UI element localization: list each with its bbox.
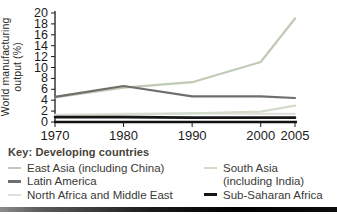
page-divider-bar: [0, 207, 337, 212]
x-tick-label: 1970: [41, 128, 70, 143]
north-africa-line-swatch: [8, 194, 21, 196]
legend-item-south-asia-line2: (including India): [204, 175, 323, 189]
chart-key: Key: Developing countries East Asia (inc…: [8, 146, 337, 161]
x-tick-label: 1990: [178, 128, 207, 143]
legend-label-east-asia: East Asia (including China): [27, 162, 164, 174]
legend-label-sub-saharan: Sub-Saharan Africa: [223, 189, 323, 201]
legend-label-south-asia-cont: (including India): [223, 175, 304, 187]
latin-america-line-swatch: [8, 180, 21, 183]
south-asia-line-swatch: [204, 167, 217, 169]
east-asia-line-swatch: [8, 167, 21, 169]
legend-label-latin-america: Latin America: [27, 175, 97, 187]
legend-item-sub-saharan: Sub-Saharan Africa: [204, 188, 323, 202]
x-tick-label: 2000: [246, 128, 275, 143]
key-title: Key: Developing countries: [8, 146, 337, 158]
key-column-1: East Asia (including China) Latin Americ…: [8, 161, 173, 202]
legend-item-east-asia: East Asia (including China): [8, 161, 173, 175]
legend-label-south-asia: South Asia: [223, 162, 278, 174]
y-tick-label: 20: [34, 6, 48, 20]
legend-item-north-africa: North Africa and Middle East: [8, 188, 173, 202]
x-tick-label: 2005: [281, 128, 310, 143]
legend-item-latin-america: Latin America: [8, 175, 173, 189]
series-line-sub-saharan-africa: [55, 117, 295, 118]
chart-canvas: 0246810121416182019701980199020002005: [0, 0, 337, 148]
key-column-2: South Asia (including India) Sub-Saharan…: [204, 161, 323, 202]
legend-label-north-africa: North Africa and Middle East: [27, 189, 173, 201]
sub-saharan-line-swatch: [204, 193, 217, 196]
series-line-east-asia-including-china: [55, 18, 295, 97]
legend-indent-spacer: [204, 180, 217, 182]
series-line-latin-america: [55, 86, 295, 98]
line-chart: World manufacturing output (%) 024681012…: [0, 0, 337, 148]
legend-item-south-asia: South Asia: [204, 161, 323, 175]
x-tick-label: 1980: [109, 128, 138, 143]
textbook-figure: World manufacturing output (%) 024681012…: [0, 0, 337, 214]
